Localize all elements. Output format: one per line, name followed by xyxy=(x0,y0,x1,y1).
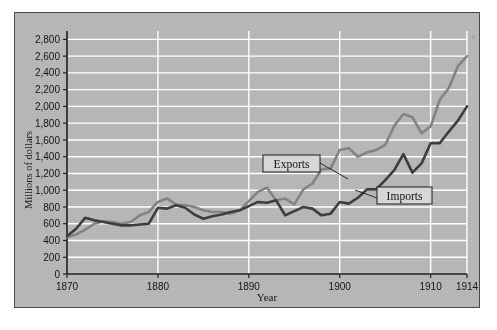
x-tick-label: 1880 xyxy=(147,281,170,292)
y-axis-title: Millions of dollars xyxy=(23,131,34,209)
chart-figure: 02004006008001,0001,2001,4001,6001,8002,… xyxy=(14,12,480,308)
callout-imports: Imports xyxy=(377,187,432,204)
y-tick-label: 1,000 xyxy=(35,185,60,196)
y-tick-label: 1,400 xyxy=(35,151,60,162)
y-tick-label: 200 xyxy=(43,252,60,263)
y-tick-label: 0 xyxy=(54,269,60,280)
y-tick-label: 1,600 xyxy=(35,135,60,146)
plot-background xyxy=(67,31,467,273)
y-tick-label: 2,600 xyxy=(35,51,60,62)
x-tick-label: 1910 xyxy=(420,281,443,292)
y-axis-ticks: 02004006008001,0001,2001,4001,6001,8002,… xyxy=(35,34,67,280)
x-axis-title: Year xyxy=(257,291,278,303)
y-tick-label: 2,000 xyxy=(35,101,60,112)
callout-label: Imports xyxy=(387,190,423,203)
x-tick-label: 1900 xyxy=(329,281,352,292)
y-tick-label: 400 xyxy=(43,235,60,246)
x-axis-ticks: 187018801890190019101914 xyxy=(56,274,479,292)
y-tick-label: 600 xyxy=(43,218,60,229)
line-chart: 02004006008001,0001,2001,4001,6001,8002,… xyxy=(15,13,479,307)
callout-exports: Exports xyxy=(263,155,320,172)
x-tick-label: 1870 xyxy=(56,281,79,292)
y-tick-label: 2,800 xyxy=(35,34,60,45)
y-tick-label: 2,200 xyxy=(35,84,60,95)
x-tick-label: 1914 xyxy=(456,281,479,292)
corner-mark: 4 xyxy=(471,33,475,41)
y-tick-label: 1,800 xyxy=(35,118,60,129)
y-tick-label: 2,400 xyxy=(35,67,60,78)
callout-label: Exports xyxy=(274,158,310,171)
y-tick-label: 800 xyxy=(43,202,60,213)
y-tick-label: 1,200 xyxy=(35,168,60,179)
